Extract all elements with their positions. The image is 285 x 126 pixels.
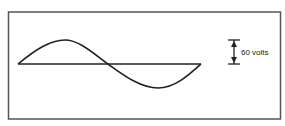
arrow-down-icon bbox=[231, 57, 237, 63]
frame-border bbox=[9, 12, 281, 119]
amplitude-indicator: 60 volts bbox=[228, 40, 269, 64]
sine-wave-diagram: 60 volts bbox=[0, 0, 285, 126]
amplitude-label: 60 volts bbox=[241, 48, 269, 57]
arrow-up-icon bbox=[231, 41, 237, 47]
